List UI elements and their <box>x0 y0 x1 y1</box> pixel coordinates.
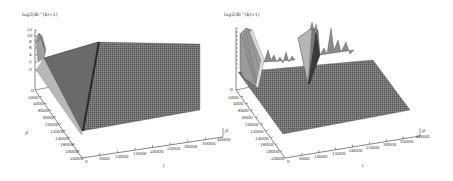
p-tick: 6000 <box>38 109 49 113</box>
z-tick: 4 <box>29 53 32 57</box>
p-tick: 20000 <box>70 157 83 161</box>
i-tick: 20000 <box>150 150 163 154</box>
i-tick: 10000 <box>115 155 128 159</box>
z-tick-zero: 0 <box>230 88 233 92</box>
p-tick: 18000 <box>266 150 279 154</box>
p-tick: 4000 <box>33 102 44 106</box>
p-tick: 16000 <box>260 143 273 147</box>
p-tick: 8000 <box>242 116 253 120</box>
p-tick: 4000 <box>233 102 244 106</box>
i-tick: 5000 <box>99 157 110 161</box>
i-tick: 5000 <box>299 157 310 161</box>
i-tick: 40000 <box>416 135 429 139</box>
p-axis-label: p <box>25 130 28 135</box>
z-tick: 10 <box>27 34 32 38</box>
right-surface-plot: log2(Bi^(k)+1) 0 2000 4000 6000 8000 100… <box>228 0 453 181</box>
p-tick: 6000 <box>238 109 249 113</box>
z-tick: 0 <box>29 68 32 72</box>
left-surface-plot: log2(Bi^(k)+1) 12 10 8 6 4 2 0 0 2000 40… <box>0 0 228 181</box>
i-axis-label: i <box>362 163 364 168</box>
i-tick: 25000 <box>167 147 180 151</box>
p-tick: 16000 <box>60 143 73 147</box>
i-tick: 10000 <box>314 155 327 159</box>
p-tick: 8000 <box>43 116 54 120</box>
i-tick: 30000 <box>184 145 197 149</box>
p-tick: 2000 <box>28 96 39 100</box>
z-tick: 12 <box>27 28 32 32</box>
p-tick: 14000 <box>255 137 268 141</box>
p-tick: 10000 <box>245 123 258 127</box>
i-tick: 20000 <box>349 149 362 153</box>
p-tick: 2000 <box>228 96 239 100</box>
left-surface-graphic <box>0 0 228 181</box>
i-tick: 15000 <box>332 152 345 156</box>
i-tick: 30000 <box>383 143 396 147</box>
i-axis-label: i <box>163 163 165 168</box>
p-tick: 12000 <box>250 130 263 134</box>
z-tick: 8 <box>29 40 32 44</box>
p-tick: 14000 <box>55 137 68 141</box>
i-tick: 0 <box>85 160 88 164</box>
i-tick: 0 <box>287 160 290 164</box>
p-tick: 10000 <box>45 123 58 127</box>
i-tick: 35000 <box>202 142 215 146</box>
i-tick: 15000 <box>133 152 146 156</box>
p-tick: 18000 <box>65 150 78 154</box>
p-tick: 20000 <box>271 157 284 161</box>
i-tick: 35000 <box>400 140 413 144</box>
z-axis-label: log2(Bi^(k)+1) <box>22 13 58 18</box>
z-tick: 6 <box>29 46 32 50</box>
p-tick: 0 <box>31 89 34 93</box>
p-tick: 12000 <box>50 130 63 134</box>
p-axis-label-right: p <box>422 128 425 133</box>
z-tick: 2 <box>29 60 32 64</box>
i-tick: 25000 <box>366 146 379 150</box>
z-axis-label: log2(Bi^(k)+1) <box>224 13 260 18</box>
